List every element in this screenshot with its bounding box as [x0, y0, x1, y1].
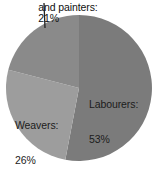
slice-label-weavers-name: Weavers:	[15, 120, 58, 132]
slice-label-labourers: Labourers: 53%	[89, 76, 138, 168]
slice-label-carpenters-painters: and painters: 21%	[27, 0, 98, 36]
slice-label-labourers-value: 53%	[89, 134, 138, 146]
slice-label-labourers-name: Labourers:	[89, 99, 138, 111]
slice-label-carpenters-painters-value: 21%	[38, 12, 59, 24]
slice-label-weavers-value: 26%	[15, 155, 58, 167]
pie-chart-figure: and painters: 21% Labourers: 53% Weavers…	[0, 0, 157, 174]
slice-label-weavers: Weavers: 26%	[15, 97, 58, 174]
slice-label-carpenters-painters-name: and painters:	[38, 1, 97, 13]
